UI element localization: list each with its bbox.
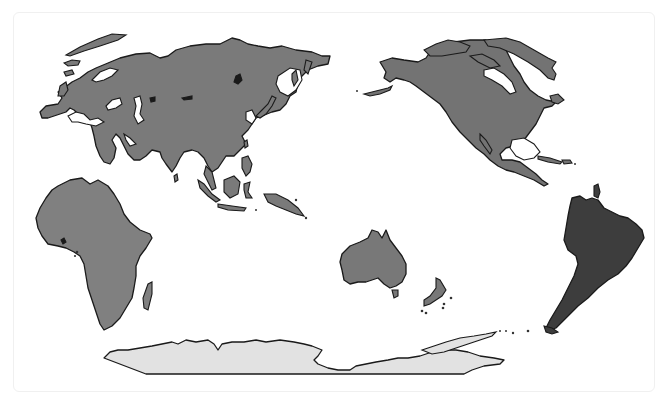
island-dot <box>295 199 297 201</box>
borneo <box>224 176 240 198</box>
island-dot <box>499 330 501 332</box>
island-dot <box>574 163 576 165</box>
svalbard <box>64 60 80 66</box>
tasmania <box>392 290 398 298</box>
island-dot <box>527 330 530 333</box>
aleutian-islands <box>364 86 392 96</box>
island-dot <box>421 310 424 313</box>
java <box>218 204 246 211</box>
novaya-zemlya <box>66 34 126 56</box>
eurasia-landmass <box>40 38 330 172</box>
taiwan <box>244 140 248 148</box>
cuba <box>538 156 562 164</box>
island-dot <box>425 312 428 315</box>
island-dot <box>356 90 358 92</box>
island-dot <box>505 330 507 332</box>
sri-lanka <box>174 174 178 182</box>
iceland <box>64 70 74 76</box>
island-dot <box>255 209 257 211</box>
island-dot <box>305 217 307 219</box>
world-map <box>0 0 662 397</box>
south-america-landmass <box>546 196 644 330</box>
newfoundland <box>550 94 564 104</box>
new-guinea <box>264 194 304 216</box>
island-dot <box>512 332 514 334</box>
region-north-america[interactable] <box>356 38 576 186</box>
island-dot <box>450 297 453 300</box>
island-dot <box>442 307 445 310</box>
gulf-of-mexico <box>510 138 540 160</box>
hispaniola <box>562 160 572 164</box>
africa-landmass <box>36 178 152 330</box>
aral-sea <box>150 97 155 102</box>
sulawesi <box>244 182 252 198</box>
region-africa[interactable] <box>36 178 152 330</box>
region-antarctica[interactable] <box>104 330 507 374</box>
kamchatka <box>304 60 312 74</box>
australia-landmass <box>340 230 406 288</box>
region-south-america[interactable] <box>512 184 644 334</box>
island-dot <box>76 251 79 254</box>
caribbean-coast <box>594 184 600 198</box>
island-dot <box>74 255 76 257</box>
philippines <box>242 156 252 176</box>
new-zealand <box>424 278 446 306</box>
madagascar <box>143 282 152 310</box>
region-oceania[interactable] <box>340 230 452 314</box>
island-dot <box>443 303 446 306</box>
